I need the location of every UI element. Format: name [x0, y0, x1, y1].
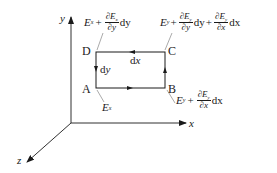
corner-B: B	[168, 83, 176, 95]
field-label-AB: Ex	[102, 102, 111, 113]
x-axis-label: x	[189, 118, 194, 129]
corner-A: A	[82, 83, 91, 95]
corner-C: C	[168, 45, 176, 57]
leader-D	[97, 33, 103, 50]
dy-label: dy	[100, 64, 110, 75]
arrow-BC-icon	[163, 67, 167, 73]
field-label-BC: Ey + ∂Ey ∂x dx	[176, 90, 223, 110]
field-label-CD-right: Ey + ∂Ey ∂y dy + ∂Ey ∂x dx	[160, 12, 240, 32]
z-axis-label: z	[17, 155, 21, 166]
fraction: ∂Ey ∂x	[197, 90, 211, 110]
z-axis	[27, 123, 71, 162]
fraction: ∂Ex ∂y	[105, 12, 119, 32]
fraction: ∂Ey ∂x	[214, 12, 228, 32]
arrow-DA-icon	[94, 66, 98, 72]
dx-label: dx	[130, 55, 140, 66]
fraction: ∂Ey ∂y	[179, 12, 193, 32]
field-label-DC: Ex + ∂Ex ∂y dy	[84, 12, 131, 32]
arrow-AB-icon	[127, 86, 133, 90]
y-axis-label: y	[60, 13, 65, 24]
corner-D: D	[82, 45, 91, 57]
